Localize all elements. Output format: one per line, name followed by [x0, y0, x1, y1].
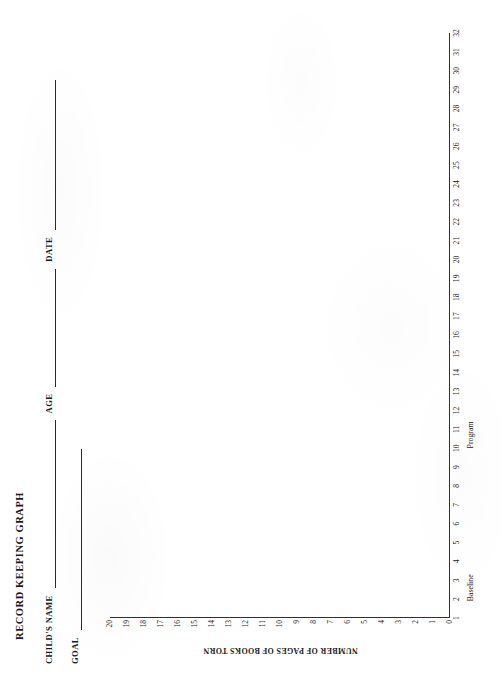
y-axis-tick-label: 7 — [327, 620, 335, 638]
x-axis-tick-label: 27 — [453, 124, 461, 132]
x-axis-tick-label: 14 — [453, 369, 461, 377]
y-axis-tick-label: 9 — [293, 620, 301, 638]
y-axis-tick-label: 11 — [259, 620, 267, 638]
x-axis-tick-label: 25 — [453, 161, 461, 169]
y-axis-tick-label: 6 — [344, 620, 352, 638]
y-axis-tick-label: 18 — [140, 620, 148, 638]
x-axis-tick-label: 24 — [453, 180, 461, 188]
y-axis-tick-label: 5 — [361, 620, 369, 638]
form-row-identity: CHILD'S NAME AGE DATE — [44, 73, 56, 664]
x-axis-tick-label: 30 — [453, 67, 461, 75]
x-axis-tick-label: 12 — [453, 407, 461, 415]
record-keeping-chart: 20191817161514131211109876543210 1234567… — [110, 33, 450, 618]
x-axis-tick-label: 3 — [453, 578, 461, 582]
x-axis-tick-label: 1 — [453, 616, 461, 620]
y-axis-tick-label: 3 — [395, 620, 403, 638]
page-title: RECORD KEEPING GRAPH — [14, 492, 25, 640]
x-axis-tick-label: 17 — [453, 312, 461, 320]
y-axis-tick-label: 0 — [446, 620, 454, 638]
y-axis-tick-label: 1 — [429, 620, 437, 638]
x-axis-tick-label: 23 — [453, 199, 461, 207]
x-axis-tick-label: 4 — [453, 559, 461, 563]
goal-label: GOAL — [70, 637, 82, 664]
y-axis-title: NUMBER OF PAGES OF BOOKS TORN — [110, 644, 450, 658]
y-axis-tick-label: 10 — [276, 620, 284, 638]
y-axis-tick-label: 2 — [412, 620, 420, 638]
y-axis-tick-label: 20 — [106, 620, 114, 638]
x-axis-tick-label: 9 — [453, 465, 461, 469]
x-axis-tick-label: 10 — [453, 444, 461, 452]
x-axis-tick-label: 19 — [453, 275, 461, 283]
x-axis-tick-label: 6 — [453, 522, 461, 526]
x-axis-tick-label: 31 — [453, 48, 461, 56]
x-axis-tick-label: 5 — [453, 541, 461, 545]
y-axis-tick-label: 17 — [157, 620, 165, 638]
child-name-input[interactable] — [44, 420, 56, 588]
x-axis-tick-label: 22 — [453, 218, 461, 226]
y-axis-tick-label: 13 — [225, 620, 233, 638]
y-axis-tick-label: 4 — [378, 620, 386, 638]
goal-input[interactable] — [70, 449, 82, 630]
x-axis-tick-label: 13 — [453, 388, 461, 396]
x-axis-tick-label: 21 — [453, 237, 461, 245]
y-axis-tick-label: 19 — [123, 620, 131, 638]
x-axis-tick-label: 8 — [453, 484, 461, 488]
age-label: AGE — [44, 394, 56, 414]
y-axis-title-text: NUMBER OF PAGES OF BOOKS TORN — [203, 647, 358, 656]
child-name-label: CHILD'S NAME — [44, 595, 56, 664]
x-axis-tick-label: 11 — [453, 426, 461, 433]
x-axis-tick-label: 16 — [453, 331, 461, 339]
x-axis-tick-label: 26 — [453, 142, 461, 150]
x-axis-tick-label: 18 — [453, 293, 461, 301]
date-label: DATE — [44, 237, 56, 262]
date-input[interactable] — [44, 80, 56, 230]
x-axis-tick-label: 20 — [453, 256, 461, 264]
x-axis-tick-label: 2 — [453, 597, 461, 601]
y-axis-tick-label: 16 — [174, 620, 182, 638]
y-axis-tick-label: 14 — [208, 620, 216, 638]
phase-labels: BaselineProgram — [466, 33, 480, 618]
x-axis-tick-label: 15 — [453, 350, 461, 358]
x-axis-tick-label: 7 — [453, 503, 461, 507]
x-axis-tick-label: 28 — [453, 105, 461, 113]
x-axis-ticks: 1234567891011121314151617181920212223242… — [450, 33, 464, 618]
y-axis-ticks: 20191817161514131211109876543210 — [110, 620, 450, 638]
y-axis-tick-label: 8 — [310, 620, 318, 638]
worksheet-sheet: RECORD KEEPING GRAPH CHILD'S NAME AGE DA… — [0, 0, 502, 680]
form-row-goal: GOAL — [70, 442, 82, 664]
phase-label-baseline: Baseline — [466, 574, 476, 601]
age-input[interactable] — [44, 269, 56, 387]
y-axis-tick-label: 12 — [242, 620, 250, 638]
scanned-page: RECORD KEEPING GRAPH CHILD'S NAME AGE DA… — [0, 0, 502, 680]
plot-frame — [110, 33, 450, 618]
x-axis-tick-label: 32 — [453, 29, 461, 37]
phase-label-program: Program — [466, 422, 476, 449]
y-axis-tick-label: 15 — [191, 620, 199, 638]
x-axis-tick-label: 29 — [453, 86, 461, 94]
